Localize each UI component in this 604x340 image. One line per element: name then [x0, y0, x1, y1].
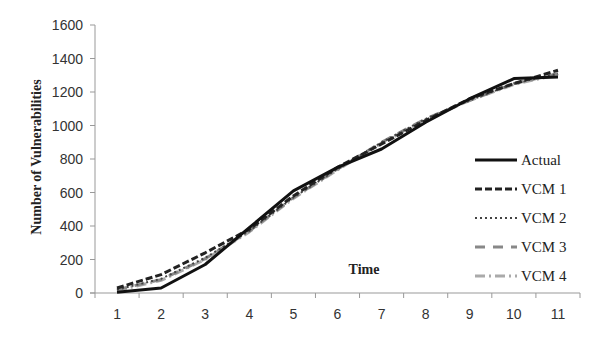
series-line-vcm-4 — [117, 74, 558, 290]
y-tick-labels: 02004006008001000120014001600 — [52, 17, 83, 301]
series-line-vcm-1 — [117, 70, 558, 288]
y-tick-label: 1200 — [52, 84, 83, 100]
data-series — [117, 70, 558, 292]
y-tick-label: 800 — [60, 151, 84, 167]
x-tick-label: 8 — [422, 306, 430, 322]
x-tick-label: 6 — [334, 306, 342, 322]
x-tick-label: 10 — [506, 306, 522, 322]
line-chart: Number of Vulnerabilities 02004006008001… — [0, 0, 604, 340]
y-tick-label: 1000 — [52, 118, 83, 134]
x-tick-label: 3 — [201, 306, 209, 322]
legend-item-actual: Actual — [475, 152, 561, 168]
x-tick-labels: 1234567891011 — [113, 306, 565, 322]
series-line-vcm-3 — [117, 74, 558, 290]
legend-label: Actual — [521, 152, 561, 168]
x-axis-label: Time — [349, 262, 380, 277]
y-tick-label: 400 — [60, 218, 84, 234]
legend-label: VCM 4 — [521, 268, 567, 284]
series-line-vcm-2 — [117, 74, 558, 290]
x-tick-label: 7 — [378, 306, 386, 322]
legend-label: VCM 3 — [521, 239, 566, 255]
legend-item-vcm-2: VCM 2 — [475, 210, 566, 226]
y-tick-label: 200 — [60, 252, 84, 268]
y-axis-title: Number of Vulnerabilities — [29, 79, 44, 235]
legend-label: VCM 2 — [521, 210, 566, 226]
legend-item-vcm-1: VCM 1 — [475, 181, 566, 197]
x-tick-label: 1 — [113, 306, 121, 322]
legend-label: VCM 1 — [521, 181, 566, 197]
x-tick-label: 11 — [551, 306, 566, 322]
y-tick-label: 0 — [75, 285, 83, 301]
x-tick-label: 2 — [157, 306, 165, 322]
x-tick-label: 4 — [245, 306, 253, 322]
legend: ActualVCM 1VCM 2VCM 3VCM 4 — [475, 152, 567, 284]
legend-item-vcm-4: VCM 4 — [475, 268, 567, 284]
y-axis-label: Number of Vulnerabilities — [29, 79, 44, 235]
y-tick-label: 1400 — [52, 51, 83, 67]
y-tick-label: 600 — [60, 185, 84, 201]
y-tick-label: 1600 — [52, 17, 83, 33]
series-line-actual — [117, 77, 558, 292]
x-tick-label: 9 — [466, 306, 474, 322]
x-tick-label: 5 — [290, 306, 298, 322]
legend-item-vcm-3: VCM 3 — [475, 239, 566, 255]
